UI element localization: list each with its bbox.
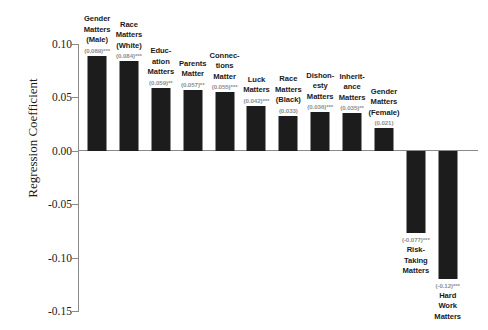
bar[interactable] — [88, 56, 107, 151]
bar-group[interactable]: (-0.12)***HardWorkMatters — [432, 44, 464, 311]
bar[interactable] — [438, 151, 457, 279]
bar[interactable] — [311, 112, 330, 150]
bar-value-label: (-0.12)*** — [435, 282, 459, 289]
y-axis-tick-label: 0.00 — [28, 145, 72, 157]
bar-value-label: (0.033) — [279, 107, 298, 114]
y-axis-tick-label: -0.05 — [28, 198, 72, 210]
bar-value-label: (0.021) — [375, 119, 394, 126]
bar[interactable] — [183, 90, 202, 151]
bar[interactable] — [406, 151, 425, 233]
y-axis-title: Regression Coefficient — [25, 13, 41, 263]
bar[interactable] — [215, 92, 234, 151]
regression-coefficient-bar-chart: Regression Coefficient 0.100.050.00-0.05… — [0, 0, 488, 330]
bar-group[interactable]: (0.035)**Inherit-anceMatters — [336, 44, 368, 311]
bar-group[interactable]: (-0.077)***Risk-TakingMatters — [400, 44, 432, 311]
y-axis-tick-label: -0.10 — [28, 252, 72, 264]
bar-value-label: (0.036)*** — [307, 103, 333, 110]
bar-group[interactable]: (0.057)**ParentsMatter — [177, 44, 209, 311]
y-axis-tick-label: -0.15 — [28, 305, 72, 317]
bar[interactable] — [279, 116, 298, 151]
bar-group[interactable]: (0.084)***RaceMatters(White) — [113, 44, 145, 311]
y-axis-tick-mark — [72, 311, 79, 312]
bar[interactable] — [374, 128, 393, 150]
bar-value-label: (-0.077)*** — [402, 236, 430, 243]
bar[interactable] — [247, 106, 266, 151]
y-axis-tick-label: 0.05 — [28, 91, 72, 103]
bar-category-label: HardWorkMatters — [421, 291, 475, 323]
bar-group[interactable]: (0.089)***GenderMatters(Male) — [81, 44, 113, 311]
bar[interactable] — [343, 113, 362, 150]
plot-area: (0.089)***GenderMatters(Male)(0.084)***R… — [78, 44, 478, 311]
bar-group[interactable]: (0.059)**Educ-ationMatters — [145, 44, 177, 311]
bar[interactable] — [151, 88, 170, 151]
y-axis-tick-label: 0.10 — [28, 38, 72, 50]
